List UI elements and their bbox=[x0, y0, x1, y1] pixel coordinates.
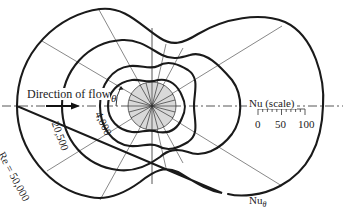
nu-scale-bar bbox=[258, 109, 305, 115]
nu-scale-label: Nu (scale) bbox=[247, 98, 297, 109]
nu-scale-tick-0: 0 bbox=[255, 119, 261, 130]
nu-scale-tick-50: 50 bbox=[275, 119, 286, 130]
nu-scale-tick-100: 100 bbox=[298, 119, 315, 130]
theta-label: θ bbox=[111, 93, 116, 104]
theta-arc bbox=[116, 87, 121, 106]
nu-theta-subscript: θ bbox=[262, 200, 266, 209]
flow-direction-label: Direction of flow bbox=[27, 88, 110, 100]
nu-theta-label: Nuθ bbox=[249, 195, 266, 209]
nu-theta-text: Nu bbox=[249, 194, 262, 206]
